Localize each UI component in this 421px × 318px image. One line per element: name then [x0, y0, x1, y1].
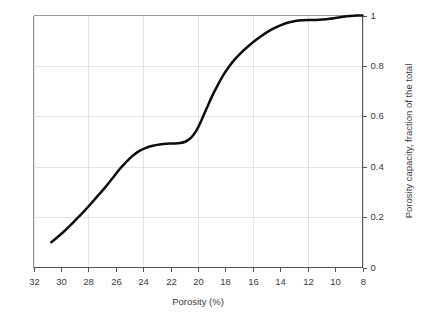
x-tick-label: 12	[303, 276, 314, 287]
y-tick-label: 1	[371, 10, 376, 21]
y-tick-label: 0.8	[371, 60, 384, 71]
x-tick-label: 8	[361, 276, 366, 287]
y-axis-title: Porosity capacity, fraction of the total	[403, 64, 414, 219]
x-tick-label: 30	[56, 276, 67, 287]
x-tick-label: 14	[275, 276, 286, 287]
x-axis-title: Porosity (%)	[172, 296, 224, 307]
porosity-capacity-chart: 3230282624222018161412108 00.20.40.60.81…	[0, 0, 421, 318]
x-tick-label: 32	[29, 276, 40, 287]
y-tick-label: 0	[371, 262, 376, 273]
x-tick-label: 28	[83, 276, 94, 287]
x-tick-label: 16	[248, 276, 259, 287]
y-tick-label: 0.2	[371, 211, 384, 222]
x-tick-label: 26	[111, 276, 122, 287]
x-tick-label: 10	[330, 276, 341, 287]
x-tick-label: 24	[138, 276, 149, 287]
x-tick-label: 20	[193, 276, 204, 287]
x-tick-label: 18	[220, 276, 231, 287]
y-tick-label: 0.6	[371, 110, 384, 121]
chart-figure: 3230282624222018161412108 00.20.40.60.81…	[0, 0, 421, 318]
x-tick-label: 22	[166, 276, 177, 287]
chart-background	[0, 0, 421, 318]
y-tick-label: 0.4	[371, 161, 384, 172]
